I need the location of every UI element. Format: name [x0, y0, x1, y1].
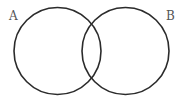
set-a-label: A	[8, 9, 18, 23]
venn-diagram: A B	[0, 0, 179, 98]
set-b-label: B	[166, 9, 175, 23]
set-b-circle	[82, 8, 169, 95]
set-a-circle	[14, 8, 101, 95]
